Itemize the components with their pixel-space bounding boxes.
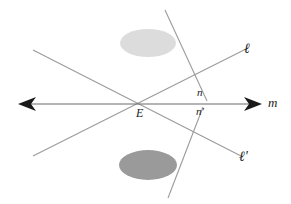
geometry-figure: m ℓ ℓ' n n' E <box>0 0 291 204</box>
ellipse-top-plane <box>120 29 176 57</box>
line-n-prime <box>168 107 203 198</box>
line-n-prime-label: n' <box>196 106 204 117</box>
figure-canvas <box>0 0 291 204</box>
line-m-label: m <box>268 96 277 109</box>
point-e-label: E <box>136 107 143 119</box>
line-n-label: n <box>197 87 203 98</box>
line-l <box>33 48 248 156</box>
line-l-label: ℓ <box>244 42 250 56</box>
ellipse-bottom-plane <box>119 150 177 180</box>
line-l-prime-label: ℓ' <box>239 150 248 164</box>
